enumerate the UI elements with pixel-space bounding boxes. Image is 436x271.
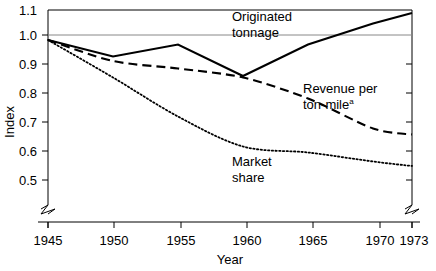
x-tick-label-1945: 1945 [34,233,63,248]
x-tick-label-1950: 1950 [100,233,129,248]
series-line-originated-tonnage [48,13,412,76]
y-tick-label-1-1: 1.1 [19,3,37,18]
annotation-revenue-per-ton-mile-line1: Revenue per [303,81,378,96]
annotation-originated-tonnage-line1: Originated [232,9,292,24]
y-tick-label-1-0: 1.0 [19,28,37,43]
y-tick-labels: 1.1 1.0 0.9 0.8 0.7 0.6 0.5 [19,3,37,188]
chart-container: 1.1 1.0 0.9 0.8 0.7 0.6 0.5 Index 1945 1… [0,0,436,271]
y-tick-label-0-6: 0.6 [19,144,37,159]
y-tick-label-0-8: 0.8 [19,86,37,101]
axis-break-marks [41,205,419,214]
x-tick-label-1970: 1970 [366,233,395,248]
x-tick-label-1955: 1955 [167,233,196,248]
y-axis-right-ticks [406,64,412,180]
x-axis-ticks [48,222,412,228]
x-tick-labels: 1945 1950 1955 1960 1965 1970 1973 [34,233,429,248]
x-axis-title: Year [217,252,244,267]
annotation-market-share-line1: Market [232,154,272,169]
x-tick-label-1973: 1973 [400,233,429,248]
x-tick-label-1960: 1960 [233,233,262,248]
y-axis-break-icon [41,205,55,214]
y-tick-label-0-9: 0.9 [19,57,37,72]
annotation-revenue-footnote-superscript: a [349,97,354,106]
x-axis-break-icon [405,205,419,214]
line-chart: 1.1 1.0 0.9 0.8 0.7 0.6 0.5 Index 1945 1… [0,0,436,271]
annotation-revenue-ton-mile-text: ton-mile [303,97,349,112]
y-axis-ticks [42,35,48,180]
y-tick-label-0-5: 0.5 [19,173,37,188]
x-tick-label-1965: 1965 [299,233,328,248]
annotation-revenue-per-ton-mile-line2: ton-milea [303,97,354,112]
plot-frame [38,10,420,228]
annotation-originated-tonnage-line2: tonnage [232,25,279,40]
annotation-market-share-line2: share [232,170,265,185]
y-axis-title: Index [2,106,17,138]
y-tick-label-0-7: 0.7 [19,115,37,130]
